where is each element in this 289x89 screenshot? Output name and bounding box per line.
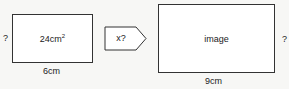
original-bottom-side-label: 6cm	[43, 66, 60, 76]
original-area-label: 24cm2	[40, 34, 65, 44]
original-area-value: 24cm	[40, 34, 62, 44]
image-side-unknown-label: ?	[282, 34, 287, 44]
original-area-exponent: 2	[62, 33, 65, 39]
image-label: image	[204, 34, 229, 44]
image-bottom-side-label: 9cm	[205, 76, 222, 86]
original-side-unknown-label: ?	[3, 33, 8, 43]
image-rectangle: image	[158, 4, 275, 73]
scale-factor-label: x?	[105, 33, 137, 43]
original-rectangle: 24cm2	[12, 14, 93, 63]
